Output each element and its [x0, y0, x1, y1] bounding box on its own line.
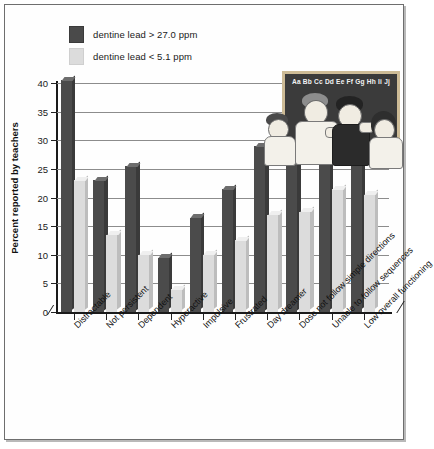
bar-face [190, 218, 201, 312]
legend-swatch-light [69, 48, 84, 65]
bar [364, 195, 375, 312]
bar [138, 255, 149, 312]
bar [299, 212, 310, 312]
bar-face [332, 189, 343, 312]
x-tick [106, 314, 107, 320]
bar [125, 166, 136, 312]
bar-top [126, 163, 140, 167]
y-tick-label: 10 [37, 249, 48, 260]
bar [222, 189, 233, 312]
bar-group [93, 83, 125, 312]
bar-face [267, 215, 278, 312]
bar-group [190, 83, 222, 312]
legend-label: dentine lead > 27.0 ppm [93, 29, 198, 40]
legend-item: dentine lead < 5.1 ppm [69, 45, 198, 67]
bar-group [158, 83, 190, 312]
bar-group [61, 83, 93, 312]
classroom-illustration: Aa Bb Cc Dd Ee Ff Gg Hh Ii Jj [263, 71, 403, 191]
bar-face [235, 240, 246, 312]
chart-frame: dentine lead > 27.0 ppm dentine lead < 5… [4, 4, 404, 440]
bar [93, 180, 104, 312]
kid-4 [367, 111, 403, 167]
bar [235, 240, 246, 312]
y-tick-label: 5 [43, 278, 48, 289]
bar-face [61, 80, 72, 312]
x-tick [299, 314, 300, 320]
kid-1 [263, 113, 297, 165]
y-tick-label: 15 [37, 221, 48, 232]
bar-face [125, 166, 136, 312]
bar-face [158, 258, 169, 312]
legend-swatch-dark [69, 26, 84, 43]
legend-item: dentine lead > 27.0 ppm [69, 23, 198, 45]
bar-face [138, 255, 149, 312]
bar [267, 215, 278, 312]
bar [171, 289, 182, 312]
bar-face [364, 195, 375, 312]
bar [158, 258, 169, 312]
legend-label: dentine lead < 5.1 ppm [93, 51, 192, 62]
bar-face [299, 212, 310, 312]
x-tick [203, 314, 204, 320]
bar-face [222, 189, 233, 312]
y-tick-label: 20 [37, 192, 48, 203]
y-tick-label: 30 [37, 135, 48, 146]
bar-face [171, 289, 182, 312]
bar-group [125, 83, 157, 312]
y-tick-label: 40 [37, 78, 48, 89]
chart-legend: dentine lead > 27.0 ppm dentine lead < 5… [69, 23, 198, 67]
blackboard-text: Aa Bb Cc Dd Ee Ff Gg Hh Ii Jj [285, 78, 397, 85]
bar [203, 255, 214, 312]
y-axis-title: Percent reported by teachers [9, 122, 20, 253]
bar-group [222, 83, 254, 312]
x-tick [235, 314, 236, 320]
bar-face [74, 180, 85, 312]
y-tick-label: 25 [37, 163, 48, 174]
bar [190, 218, 201, 312]
x-axis-line [56, 312, 392, 314]
bar [106, 235, 117, 312]
x-tick [332, 314, 333, 320]
bar [332, 189, 343, 312]
x-tick [171, 314, 172, 320]
bar-face [106, 235, 117, 312]
y-tick-label: 35 [37, 106, 48, 117]
bar-face [93, 180, 104, 312]
bar [74, 180, 85, 312]
x-tick [364, 314, 365, 320]
bar-top [94, 177, 108, 181]
body-icon [264, 136, 296, 166]
bar-face [203, 255, 214, 312]
x-tick [267, 314, 268, 320]
bar [61, 80, 72, 312]
x-tick [74, 314, 75, 320]
x-tick [138, 314, 139, 320]
body-icon [369, 137, 403, 169]
